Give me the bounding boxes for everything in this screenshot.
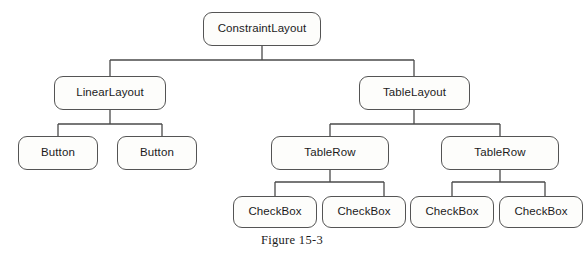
node-button-2: Button [117, 136, 197, 170]
node-tablerow-1: TableRow [271, 136, 389, 170]
node-linearlayout: LinearLayout [54, 76, 166, 110]
node-checkbox-1-label: CheckBox [248, 206, 301, 218]
figure-diagram: ConstraintLayout LinearLayout TableLayou… [0, 0, 584, 260]
node-button-2-label: Button [140, 147, 174, 159]
node-button-1-label: Button [41, 147, 75, 159]
node-checkbox-2: CheckBox [322, 196, 406, 228]
node-tablerow-2: TableRow [441, 136, 559, 170]
node-button-1: Button [18, 136, 98, 170]
node-checkbox-2-label: CheckBox [337, 206, 390, 218]
node-checkbox-3-label: CheckBox [425, 206, 478, 218]
node-tablelayout-label: TableLayout [383, 87, 446, 99]
node-tablelayout: TableLayout [359, 76, 470, 110]
node-constraintlayout: ConstraintLayout [203, 12, 321, 46]
node-checkbox-3: CheckBox [410, 196, 494, 228]
node-checkbox-4-label: CheckBox [514, 206, 567, 218]
node-checkbox-4: CheckBox [499, 196, 583, 228]
node-checkbox-1: CheckBox [233, 196, 317, 228]
node-tablerow-2-label: TableRow [474, 147, 525, 159]
node-linearlayout-label: LinearLayout [76, 87, 144, 99]
figure-caption: Figure 15-3 [0, 233, 584, 248]
node-constraintlayout-label: ConstraintLayout [218, 23, 307, 35]
node-tablerow-1-label: TableRow [304, 147, 355, 159]
